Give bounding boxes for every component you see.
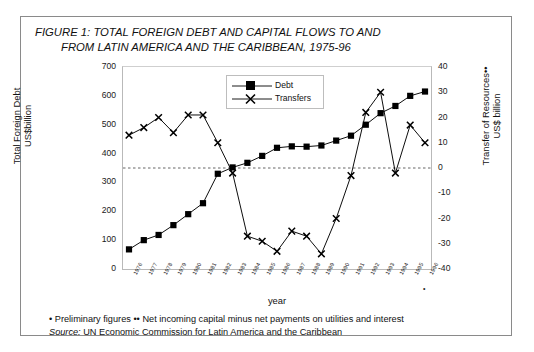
left-tick-100: 100	[86, 234, 116, 244]
right-tick-40: 40	[438, 61, 464, 71]
data-point-debt-1987	[289, 143, 295, 149]
data-point-debt-1988	[304, 144, 310, 150]
data-point-debt-1990	[333, 137, 339, 143]
data-point-transfers-1990	[333, 215, 340, 222]
data-point-transfers-1983	[229, 170, 236, 177]
left-tick-200: 200	[86, 205, 116, 215]
data-point-transfers-1992	[363, 109, 370, 116]
data-point-debt-1981	[200, 200, 206, 206]
data-point-transfers-1979	[170, 129, 177, 136]
data-point-transfers-1987	[289, 228, 296, 235]
right-tick--40: -40	[438, 263, 464, 273]
data-point-debt-1991	[348, 133, 354, 139]
data-point-debt-1993	[378, 110, 384, 116]
data-point-debt-1984	[244, 160, 250, 166]
right-tick-0: 0	[438, 162, 464, 172]
data-point-debt-1989	[318, 142, 324, 148]
data-point-debt-1982	[215, 171, 221, 177]
legend-item-debt[interactable]: Debt	[231, 79, 321, 93]
data-point-transfers-1991	[348, 172, 355, 179]
data-point-transfers-1996	[422, 139, 429, 146]
data-point-debt-1977	[141, 237, 147, 243]
left-tick-0: 0	[86, 263, 116, 273]
right-tick--10: -10	[438, 187, 464, 197]
left-axis-title-line-1: Total Foreign Debt	[11, 88, 22, 165]
legend-label-debt: Debt	[275, 80, 293, 90]
legend-label-transfers: Transfers	[275, 93, 311, 103]
series-line-transfers	[129, 92, 425, 254]
data-point-transfers-1988	[303, 233, 310, 240]
legend-marker-filled-square	[231, 79, 273, 93]
data-point-transfers-1984	[244, 233, 251, 240]
right-tick-10: 10	[438, 137, 464, 147]
data-point-debt-1994	[392, 103, 398, 109]
figure-title-line-1: FIGURE 1: TOTAL FOREIGN DEBT AND CAPITAL…	[35, 26, 381, 38]
note-source: Source: UN Economic Commission for Latin…	[49, 326, 499, 339]
data-point-debt-1985	[259, 153, 265, 159]
left-axis-title: Total Foreign Debt US$billion	[11, 51, 33, 201]
right-axis-title-line-1: Transfer of Resources••	[480, 67, 491, 166]
left-tick-400: 400	[86, 148, 116, 158]
figure-title-line-2: FROM LATIN AMERICA AND THE CARIBBEAN, 19…	[35, 40, 495, 55]
data-point-debt-1996	[422, 88, 428, 94]
data-point-debt-1980	[185, 211, 191, 217]
right-axis-title: Transfer of Resources•• US$ billion	[480, 31, 502, 201]
data-point-debt-1976	[126, 246, 132, 252]
data-point-transfers-1995	[407, 122, 414, 129]
x-axis-tick-labels: 1976197719781979198019811982198319841985…	[122, 273, 434, 295]
note-preliminary: • Preliminary figures •• Net incoming ca…	[49, 313, 499, 326]
chart-area: Total Foreign Debt US$billion Transfer o…	[21, 61, 513, 309]
data-point-debt-1978	[156, 232, 162, 238]
right-tick-20: 20	[438, 112, 464, 122]
data-point-transfers-1977	[141, 124, 148, 131]
right-axis-title-line-2: US$ billion	[491, 94, 502, 139]
legend-item-transfers[interactable]: Transfers	[231, 92, 321, 106]
left-tick-700: 700	[86, 61, 116, 71]
data-point-debt-1995	[407, 93, 413, 99]
left-tick-600: 600	[86, 90, 116, 100]
data-point-debt-1986	[274, 145, 280, 151]
x-axis-title: year	[122, 295, 432, 306]
x-axis-footnote-marker: •	[423, 285, 425, 292]
figure-title: FIGURE 1: TOTAL FOREIGN DEBT AND CAPITAL…	[35, 25, 495, 55]
figure-notes: • Preliminary figures •• Net incoming ca…	[49, 313, 499, 339]
data-point-transfers-1976	[126, 132, 133, 139]
left-tick-500: 500	[86, 119, 116, 129]
note-source-label: Source:	[49, 327, 81, 337]
chart-legend: Debt Transfers	[226, 75, 324, 109]
left-axis-title-line-2: US$billion	[22, 105, 33, 147]
data-point-transfers-1978	[155, 114, 162, 121]
data-point-debt-1979	[170, 222, 176, 228]
left-tick-300: 300	[86, 176, 116, 186]
note-source-text: UN Economic Commission for Latin America…	[81, 327, 342, 337]
right-tick-30: 30	[438, 86, 464, 96]
legend-marker-cross	[231, 92, 273, 106]
right-tick--20: -20	[438, 213, 464, 223]
plot-region: Debt Transfers	[122, 66, 432, 270]
data-point-transfers-1982	[215, 139, 222, 146]
figure-frame: FIGURE 1: TOTAL FOREIGN DEBT AND CAPITAL…	[20, 16, 512, 336]
